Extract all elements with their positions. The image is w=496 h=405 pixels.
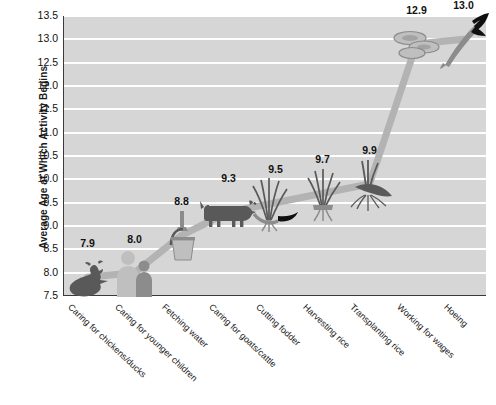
x-tick-label: Cutting fodder [254, 302, 302, 348]
chart-figure: Average Age at Which Activity Begins 13.… [0, 0, 496, 405]
x-tick-label: Hoeing [442, 302, 470, 329]
x-tick-label: Caring for younger children [113, 302, 199, 383]
x-axis-tick-labels: Caring for chickens/ducksCaring for youn… [0, 0, 496, 405]
x-tick-label: Harvesting rice [301, 302, 352, 350]
x-tick-label: Caring for chickens/ducks [66, 302, 148, 380]
x-tick-label: Fetching water [160, 302, 210, 350]
